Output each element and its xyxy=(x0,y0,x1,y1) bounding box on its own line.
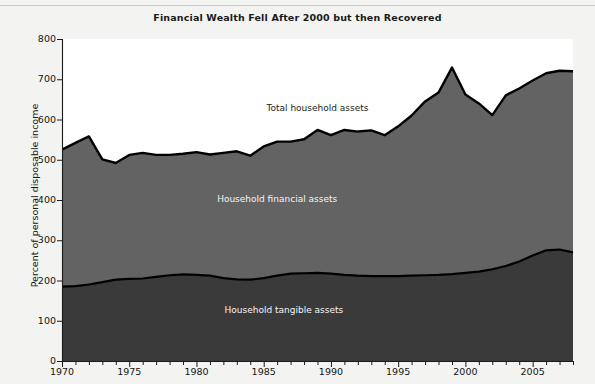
x-tick-label-1985: 1985 xyxy=(244,366,284,377)
y-tick-label-400: 400 xyxy=(26,195,56,205)
y-axis-tick-labels: 8007006005004003002001000 xyxy=(22,0,56,384)
x-tick-label-2000: 2000 xyxy=(445,366,485,377)
header-divider xyxy=(0,5,595,6)
chart-title: Financial Wealth Fell After 2000 but the… xyxy=(0,12,595,23)
x-tick-label-1990: 1990 xyxy=(311,366,351,377)
y-tick-label-0: 0 xyxy=(26,356,56,366)
x-tick-label-1995: 1995 xyxy=(378,366,418,377)
chart-figure: Financial Wealth Fell After 2000 but the… xyxy=(0,0,595,384)
annotation-total-household-assets: Total household assets xyxy=(267,103,369,113)
y-tick-label-200: 200 xyxy=(26,276,56,286)
y-tick-label-500: 500 xyxy=(26,155,56,165)
y-tick-label-700: 700 xyxy=(26,74,56,84)
annotation-household-financial-assets: Household financial assets xyxy=(217,194,337,204)
y-tick-label-600: 600 xyxy=(26,115,56,125)
annotation-household-tangible-assets: Household tangible assets xyxy=(225,305,344,315)
y-tick-label-300: 300 xyxy=(26,235,56,245)
x-tick-label-1980: 1980 xyxy=(176,366,216,377)
x-tick-label-1970: 1970 xyxy=(42,366,82,377)
y-tick-label-800: 800 xyxy=(26,34,56,44)
x-tick-label-2005: 2005 xyxy=(513,366,553,377)
y-tick-label-100: 100 xyxy=(26,316,56,326)
x-tick-label-1975: 1975 xyxy=(109,366,149,377)
